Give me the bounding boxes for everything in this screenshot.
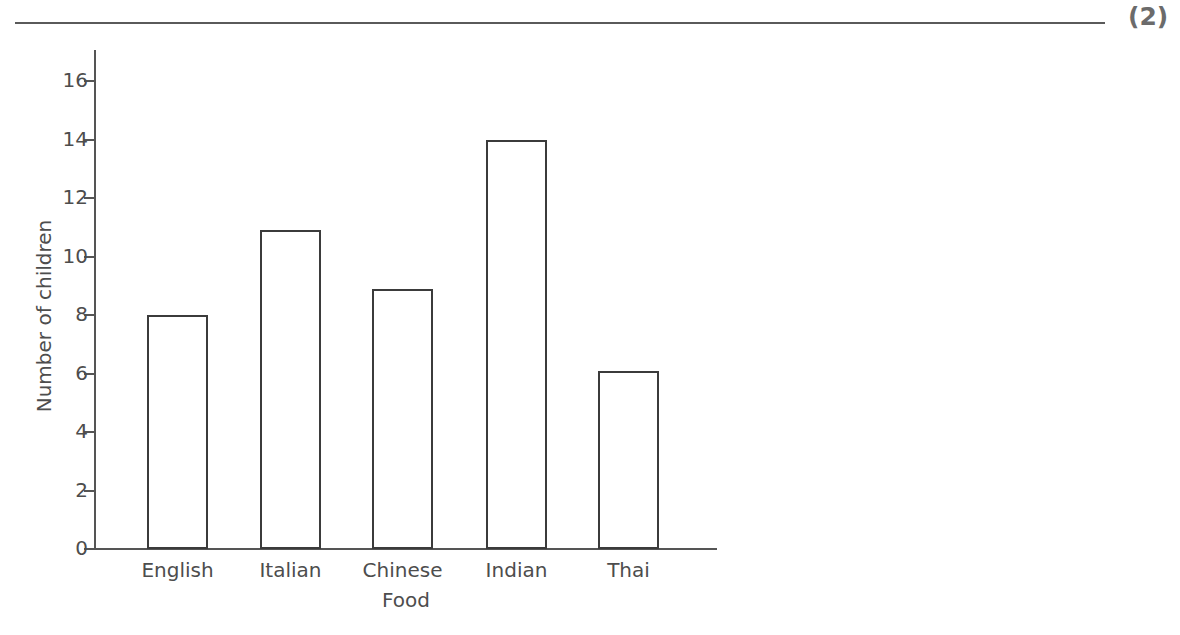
bar-indian <box>486 140 547 550</box>
bar-chart: 1614121086420 Number of children English… <box>0 0 1180 635</box>
y-tick-label: 14 <box>28 129 88 149</box>
bar-chinese <box>372 289 433 549</box>
bar-thai <box>598 371 659 549</box>
y-axis-title: Number of children <box>32 186 56 446</box>
bar-english <box>147 315 208 549</box>
y-tick-label: 0 <box>28 538 88 558</box>
y-tick-label: 2 <box>28 480 88 500</box>
y-axis-line <box>94 50 96 550</box>
x-tick-label-thai: Thai <box>559 558 699 582</box>
x-axis-title: Food <box>316 588 496 612</box>
y-tick-label: 16 <box>28 70 88 90</box>
bar-italian <box>260 230 321 549</box>
